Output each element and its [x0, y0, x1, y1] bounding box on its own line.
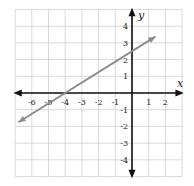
x-tick-label: -2 — [95, 98, 103, 107]
y-tick-label: 3 — [123, 39, 128, 48]
y-axis-up-arrow-icon — [129, 8, 136, 16]
x-axis-label: x — [177, 77, 184, 90]
y-axis-down-arrow-icon — [129, 170, 136, 178]
coordinate-plane: -6-5-4-3-2-1124321-1-2-3-4 x y — [0, 0, 194, 186]
x-axis-left-arrow-icon — [13, 90, 21, 97]
y-tick-label: -1 — [120, 106, 128, 115]
y-tick-label: 1 — [123, 72, 128, 81]
y-axis-label: y — [137, 9, 145, 22]
x-tick-label: -4 — [61, 98, 69, 107]
x-tick-label: 1 — [146, 98, 151, 107]
x-tick-label: 2 — [163, 98, 168, 107]
x-axis-right-arrow-icon — [175, 90, 183, 97]
y-tick-label: -4 — [120, 156, 128, 165]
y-tick-label: -2 — [120, 122, 128, 131]
x-tick-label: -3 — [78, 98, 86, 107]
y-tick-label: 4 — [123, 22, 128, 31]
x-tick-label: -6 — [28, 98, 36, 107]
x-tick-label: -1 — [111, 98, 119, 107]
y-tick-label: -3 — [120, 139, 128, 148]
